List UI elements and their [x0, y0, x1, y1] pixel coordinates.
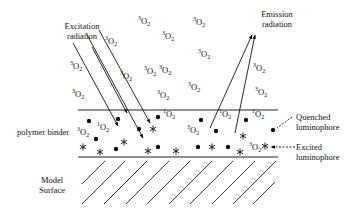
triplet-oxygen: 3O2 — [144, 66, 156, 76]
excited-star-icon — [97, 148, 103, 155]
excited-star-icon — [150, 125, 156, 132]
triplet-oxygen: 3O2 — [187, 125, 199, 135]
triplet-oxygen: 3O2 — [253, 63, 265, 73]
singlet-oxygen: 1O2 — [252, 109, 264, 119]
singlet-oxygen: 1O2 — [97, 122, 109, 132]
luminophore-dot — [137, 127, 141, 131]
triplet-oxygen: 3O2 — [157, 90, 169, 100]
luminophore-dot — [87, 119, 91, 123]
polymer-binder-label: polymer binder — [17, 127, 69, 137]
luminophore-dot — [156, 115, 160, 119]
triplet-oxygen: 3O2 — [159, 65, 171, 75]
singlet-oxygen: 1O2 — [163, 109, 175, 119]
luminophore-dot — [114, 147, 118, 151]
excited-star-icon — [80, 143, 86, 150]
luminophore-dot — [196, 145, 200, 149]
luminophore-dot — [116, 117, 120, 121]
model-surface-label: Model Surface — [27, 175, 77, 195]
triplet-oxygen: 3O2 — [255, 87, 267, 97]
triplet-oxygen: 3O2 — [77, 127, 89, 137]
excited-star-icon — [262, 142, 268, 149]
excited-star-icon — [145, 147, 151, 154]
singlet-oxygen: 1O2 — [219, 109, 231, 119]
triplet-oxygen: 3O2 — [70, 61, 82, 71]
luminophore-dot — [199, 118, 203, 122]
triplet-oxygen: 3O2 — [193, 17, 205, 27]
quenched-leader — [277, 117, 292, 128]
quenched-label: Quenched luminophore — [296, 112, 339, 132]
luminophore-dot — [244, 118, 248, 122]
excited-star-icon — [240, 132, 246, 139]
triplet-oxygen: 3O2 — [105, 36, 117, 46]
emission-arrows — [210, 35, 255, 133]
triplet-oxygen: 3O2 — [162, 31, 174, 41]
triplet-oxygen: 3O2 — [198, 49, 210, 59]
excited-label: Excited luminophore — [296, 142, 339, 162]
excited-star-icon — [237, 148, 243, 155]
excited-star-icon — [209, 143, 215, 150]
triplet-oxygen: 3O2 — [138, 16, 150, 26]
luminophore-dot — [156, 145, 160, 149]
triplet-oxygen: 3O2 — [249, 142, 261, 152]
triplet-oxygen: 3O2 — [188, 82, 200, 92]
luminophore-dot — [214, 129, 218, 133]
luminophore-dot — [271, 128, 275, 132]
surface-hatch — [82, 161, 276, 204]
excitation-arrows — [73, 30, 150, 138]
emission-label: Emission radiation — [243, 9, 311, 29]
triplet-oxygen: 3O2 — [72, 89, 84, 99]
excited-star-icon — [121, 138, 127, 145]
triplet-oxygen: 3O2 — [120, 71, 132, 81]
luminophore-dot — [94, 137, 98, 141]
luminophore-dot — [226, 145, 230, 149]
excited-star-icon — [173, 147, 179, 154]
